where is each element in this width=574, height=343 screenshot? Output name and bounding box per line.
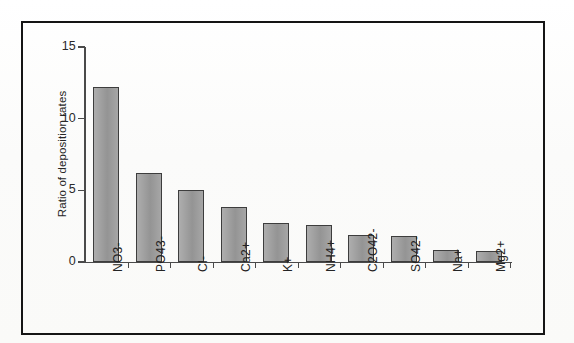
x-tick-0	[128, 262, 129, 268]
x-label-Na+: Na+	[451, 182, 465, 272]
y-tick-15	[78, 46, 85, 47]
x-label-NO3-: NO3-	[111, 182, 125, 272]
y-tick-label-15: 15	[36, 39, 76, 53]
x-tick-5	[340, 262, 341, 268]
x-label-C2O42-: C2O42-	[366, 182, 380, 272]
x-label-Mg2+: Mg2+	[494, 182, 508, 272]
x-tick-7	[425, 262, 426, 268]
x-tick-8	[468, 262, 469, 268]
x-label-SO42-: SO42-	[409, 182, 423, 272]
x-tick-6	[383, 262, 384, 268]
y-tick-5	[78, 190, 85, 191]
x-tick-3	[255, 262, 256, 268]
x-label-Ca2+: Ca2+	[239, 182, 253, 272]
figure-page: Ratio of deposition rates 051015 NO3-PO4…	[0, 0, 574, 343]
x-label-K+: K+	[281, 182, 295, 272]
y-tick-label-10: 10	[36, 111, 76, 125]
x-label-PO43-: PO43-	[154, 182, 168, 272]
y-axis-line	[84, 47, 86, 263]
x-tick-2	[213, 262, 214, 268]
y-tick-10	[78, 118, 85, 119]
x-tick-9	[510, 262, 511, 268]
x-tick-1	[170, 262, 171, 268]
y-tick-label-5: 5	[36, 182, 76, 196]
bar-chart-plot: Ratio of deposition rates 051015 NO3-PO4…	[0, 0, 574, 343]
y-tick-label-0: 0	[36, 254, 76, 268]
x-label-NH4+: NH4+	[324, 182, 338, 272]
y-axis-title: Ratio of deposition rates	[56, 59, 68, 249]
x-tick-4	[298, 262, 299, 268]
x-label-Cl-: Cl-	[196, 182, 210, 272]
y-tick-0	[78, 261, 85, 262]
